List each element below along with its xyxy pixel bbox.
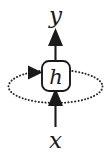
recurrent-loop-arrowhead-icon [28, 66, 43, 80]
input-label: x [49, 127, 62, 153]
hidden-state-label: h [49, 65, 63, 89]
output-arrowhead-icon [48, 28, 63, 46]
output-arrow-group [48, 28, 63, 61]
output-label: y [48, 2, 63, 28]
diagram-canvas: h y x [0, 0, 111, 154]
input-arrow-group [48, 88, 63, 127]
